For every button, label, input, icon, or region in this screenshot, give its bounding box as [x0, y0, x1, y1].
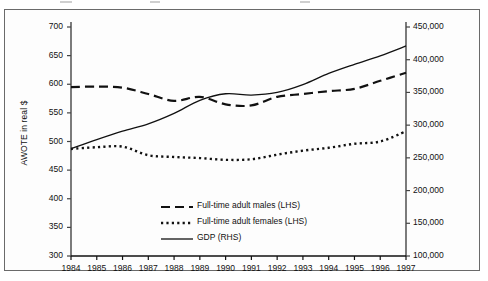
series-line-dotted: [71, 131, 406, 160]
y-left-tick-650: 650: [33, 50, 63, 60]
y-left-tick-400: 400: [33, 193, 63, 203]
y-left-tick-700: 700: [33, 21, 63, 31]
y-axis-left-title: AWOTE in real $: [19, 78, 29, 188]
series-line-solid: [71, 46, 406, 149]
legend-swatch-dotted: [161, 218, 193, 228]
legend-label-1: Full-time adult females (LHS): [197, 216, 307, 226]
series-line-dashed: [71, 73, 406, 106]
chart-plot-area: [5, 10, 479, 269]
legend-label-2: GDP (RHS): [197, 232, 241, 242]
y-right-tick-450000: 450,000: [413, 21, 459, 31]
y-left-tick-500: 500: [33, 136, 63, 146]
y-left-tick-450: 450: [33, 164, 63, 174]
y-right-tick-100000: 100,000: [413, 250, 459, 260]
y-left-tick-300: 300: [33, 250, 63, 260]
x-tick-1997: 1997: [391, 263, 421, 273]
y-right-tick-250000: 250,000: [413, 152, 459, 162]
y-right-tick-350000: 350,000: [413, 86, 459, 96]
legend-swatch-solid: [161, 234, 193, 244]
chart-figure: AWOTE in real $ GDP in $m at 1989-90 pri…: [4, 9, 480, 271]
y-left-tick-550: 550: [33, 107, 63, 117]
y-left-tick-600: 600: [33, 78, 63, 88]
y-right-tick-300000: 300,000: [413, 119, 459, 129]
y-right-tick-200000: 200,000: [413, 185, 459, 195]
y-right-tick-400000: 400,000: [413, 54, 459, 64]
top-edge-artifact: [0, 0, 488, 7]
y-right-tick-150000: 150,000: [413, 217, 459, 227]
legend-swatch-dashed: [161, 202, 193, 212]
legend-label-0: Full-time adult males (LHS): [197, 200, 300, 210]
y-left-tick-350: 350: [33, 221, 63, 231]
